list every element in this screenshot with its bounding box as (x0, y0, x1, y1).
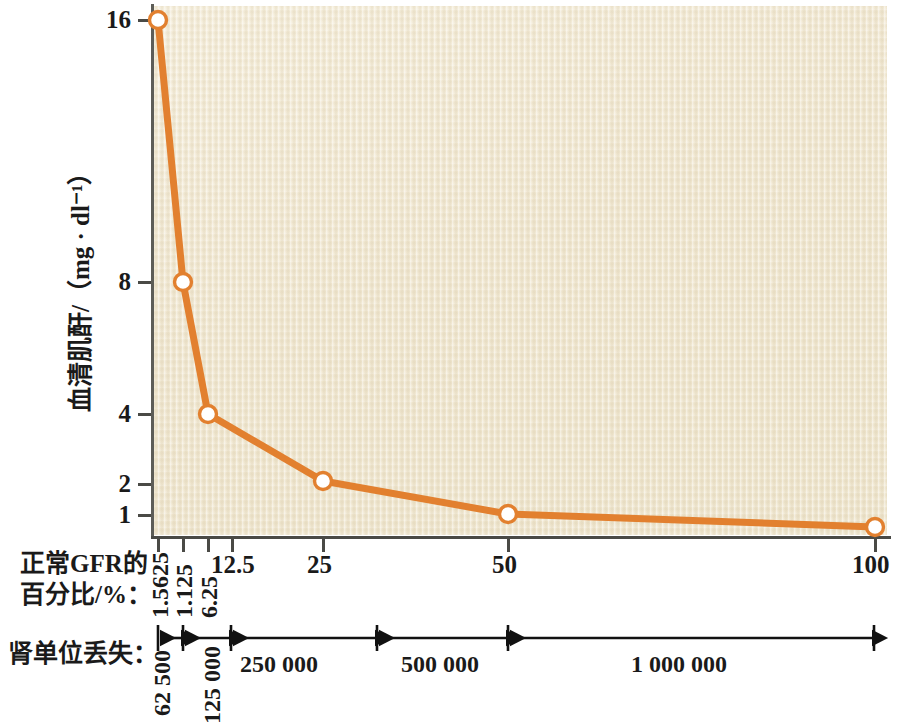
y-tick-label-2: 2 (93, 471, 131, 496)
x-tick-label-1-125: 1.125 (172, 564, 196, 618)
y-tick-label-8: 8 (93, 269, 131, 294)
y-tick-8 (138, 281, 151, 284)
x-tick-1-125 (182, 539, 185, 552)
y-axis-line (151, 4, 154, 539)
x-tick-6-25 (207, 539, 210, 552)
x-axis-caption-line1: 正常GFR的 (20, 549, 152, 580)
y-tick-label-16: 16 (93, 7, 131, 32)
x-tick-label-50: 50 (492, 552, 517, 577)
nephron-loss-caption: 肾单位丢失： (8, 633, 158, 669)
y-tick-1 (138, 514, 151, 517)
x-tick-label-25: 25 (307, 552, 332, 577)
y-tick-16 (138, 19, 151, 22)
nephron-label-125000: 125 000 (200, 646, 224, 724)
nephron-label-62500: 62 500 (150, 650, 174, 716)
y-tick-4 (138, 413, 151, 416)
x-tick-label-6-25: 6.25 (197, 576, 221, 618)
x-axis-line (151, 536, 891, 539)
plot-background (152, 6, 887, 535)
nephron-label-1000000: 1 000 000 (631, 652, 727, 676)
x-tick-1-5625 (157, 539, 160, 552)
nephron-label-500000: 500 000 (401, 652, 479, 676)
x-tick-label-12-5: 12.5 (211, 552, 255, 577)
y-axis-title: 血清肌酐/（mg · dl⁻¹） (68, 376, 93, 412)
y-tick-2 (138, 483, 151, 486)
x-axis-caption-line2: 百分比/%： (20, 580, 152, 611)
y-tick-label-4: 4 (93, 401, 131, 426)
y-tick-label-1: 1 (93, 502, 131, 527)
x-axis-caption: 正常GFR的 百分比/%： (20, 549, 152, 610)
nephron-label-250000: 250 000 (240, 652, 318, 676)
x-tick-label-100: 100 (852, 552, 890, 577)
x-tick-label-1-5625: 1.5625 (148, 552, 172, 618)
